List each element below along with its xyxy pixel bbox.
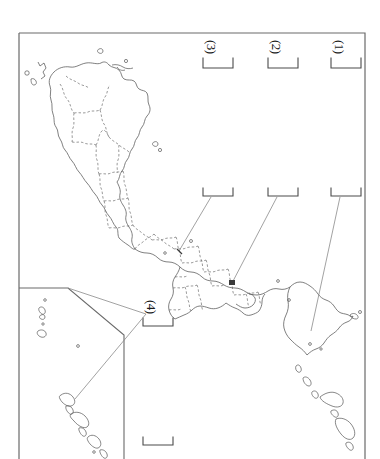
honshu-coastline [38, 62, 353, 355]
answer-brackets-top-row [203, 58, 361, 68]
leader-line-2 [232, 197, 277, 283]
izu-ogasawara-chain [296, 365, 355, 450]
bracket-2-lower [268, 188, 298, 196]
nansei-inset-box [19, 288, 124, 459]
japan-map [25, 49, 362, 459]
bracket-1-top [331, 58, 361, 68]
offshore-islands [25, 49, 362, 351]
worksheet-page: (3) (2) (1) (4) [0, 0, 380, 459]
nansei-islands [37, 299, 107, 459]
bracket-3-top [203, 58, 233, 68]
answer-number-4: (4) [145, 300, 158, 314]
answer-number-2: (2) [270, 40, 283, 54]
answer-brackets-blank-4 [143, 318, 173, 445]
leader-line-3 [179, 197, 211, 251]
marker-filled-square [229, 280, 235, 285]
bracket-3-lower [203, 188, 233, 196]
answer-brackets-lower-row [203, 188, 361, 196]
bracket-1-lower [331, 188, 361, 196]
map-worksheet-canvas [0, 0, 380, 459]
leader-line-4 [75, 314, 146, 399]
bracket-4-lower [143, 437, 173, 445]
answer-number-3: (3) [205, 40, 218, 54]
leader-line-4-upper [68, 288, 146, 314]
leader-line-1 [311, 197, 340, 331]
prefecture-borders [60, 76, 261, 311]
leader-lines [68, 197, 340, 399]
bracket-2-top [268, 58, 298, 68]
answer-number-1: (1) [333, 40, 346, 54]
bracket-4-top [143, 318, 173, 326]
